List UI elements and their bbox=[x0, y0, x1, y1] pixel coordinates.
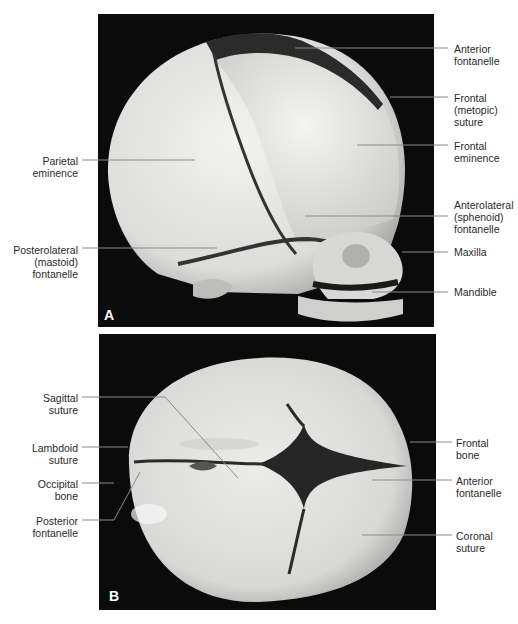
panel-letter-a: A bbox=[104, 307, 114, 323]
label-posterior-fontanelle: Posterior fontanelle bbox=[32, 515, 78, 539]
label-anterolateral-fontanelle: Anterolateral (sphenoid) fontanelle bbox=[454, 199, 514, 235]
label-lambdoid-suture: Lambdoid suture bbox=[32, 442, 78, 466]
panel-b-superior-skull-photo: B bbox=[99, 334, 436, 610]
label-coronal-suture: Coronal suture bbox=[456, 530, 493, 554]
label-parietal-eminence: Parietal eminence bbox=[32, 155, 78, 179]
label-frontal-bone: Frontal bone bbox=[456, 437, 489, 461]
label-maxilla: Maxilla bbox=[454, 246, 487, 258]
panel-letter-b: B bbox=[109, 588, 119, 604]
label-frontal-eminence: Frontal eminence bbox=[454, 140, 500, 164]
label-anterior-fontanelle: Anterior fontanelle bbox=[454, 43, 500, 67]
lateral-skull-illustration bbox=[98, 14, 434, 327]
label-sagittal-suture: Sagittal suture bbox=[43, 392, 78, 416]
panel-a-lateral-skull-photo: A bbox=[98, 14, 434, 327]
label-anterior-fontanelle-b: Anterior fontanelle bbox=[456, 475, 502, 499]
label-mandible: Mandible bbox=[454, 286, 497, 298]
superior-skull-illustration bbox=[99, 334, 436, 610]
label-posterolateral-fontanelle: Posterolateral (mastoid) fontanelle bbox=[13, 244, 78, 280]
label-occipital-bone: Occipital bone bbox=[38, 478, 78, 502]
label-frontal-metopic-suture: Frontal (metopic) suture bbox=[454, 92, 498, 128]
